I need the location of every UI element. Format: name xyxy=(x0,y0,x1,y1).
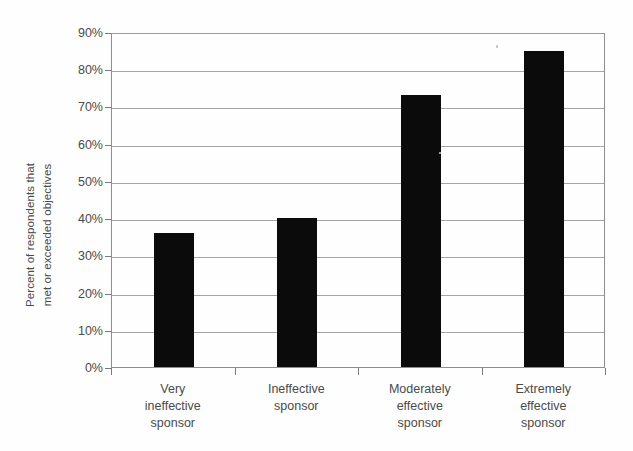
x-category-label-1-line-1: sponsor xyxy=(234,398,358,415)
x-category-label-2-line-2: sponsor xyxy=(358,415,482,432)
y-tick-label-20: 20% xyxy=(0,287,103,301)
bar-3 xyxy=(524,51,564,367)
x-category-label-0-line-1: ineffective xyxy=(111,398,235,415)
y-tick-label-50: 50% xyxy=(0,175,103,189)
x-category-label-3: Extremelyeffectivesponsor xyxy=(481,381,605,432)
x-category-label-0: Veryineffectivesponsor xyxy=(111,381,235,432)
x-category-label-1-line-0: Ineffective xyxy=(234,381,358,398)
y-tick-label-30: 30% xyxy=(0,249,103,263)
x-category-label-0-line-2: sponsor xyxy=(111,415,235,432)
x-tick-3 xyxy=(482,368,483,375)
bar-1 xyxy=(277,218,317,367)
y-tick-label-40: 40% xyxy=(0,212,103,226)
x-tick-1 xyxy=(235,368,236,375)
x-tick-4 xyxy=(605,368,606,375)
y-tick-label-0: 0% xyxy=(0,361,103,375)
x-category-label-2-line-1: effective xyxy=(358,398,482,415)
bar-2 xyxy=(401,95,441,367)
x-tick-0 xyxy=(111,368,112,375)
x-category-label-1: Ineffectivesponsor xyxy=(234,381,358,415)
x-tick-2 xyxy=(358,368,359,375)
x-category-label-0-line-0: Very xyxy=(111,381,235,398)
plot-area xyxy=(111,33,605,368)
scan-speckle xyxy=(496,45,498,48)
y-tick-label-90: 90% xyxy=(0,26,103,40)
x-category-label-3-line-0: Extremely xyxy=(481,381,605,398)
y-tick-label-70: 70% xyxy=(0,100,103,114)
bar-chart: Percent of respondents that met or excee… xyxy=(0,0,633,451)
x-category-label-2: Moderatelyeffectivesponsor xyxy=(358,381,482,432)
x-category-label-2-line-0: Moderately xyxy=(358,381,482,398)
x-category-label-3-line-2: sponsor xyxy=(481,415,605,432)
y-tick-label-60: 60% xyxy=(0,138,103,152)
x-category-label-3-line-1: effective xyxy=(481,398,605,415)
y-tick-label-10: 10% xyxy=(0,324,103,338)
bar-0 xyxy=(154,233,194,367)
y-tick-label-80: 80% xyxy=(0,63,103,77)
